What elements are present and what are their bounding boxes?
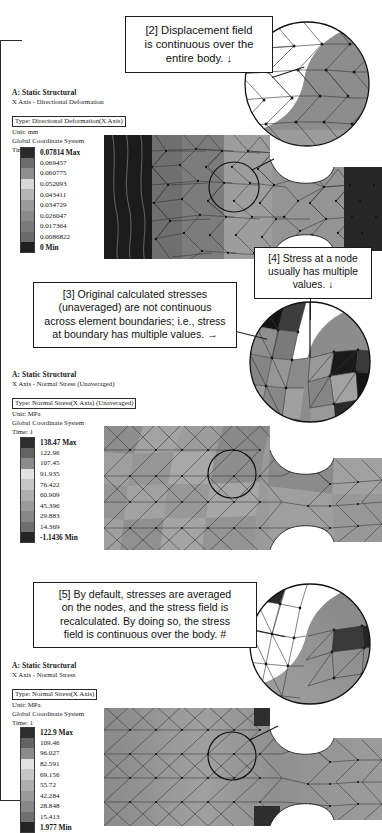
legend-value-label: 0.0086822 — [40, 233, 70, 241]
magnifier-source-stress-unaveraged — [206, 442, 276, 502]
result-coordinate-system: Global Coordinate System — [12, 419, 136, 428]
legend-row: 0.026047 — [20, 211, 80, 222]
legend-row: 60.909 — [20, 490, 78, 501]
legend-color-swatch — [20, 812, 35, 823]
legend-color-swatch — [20, 769, 35, 780]
callout-2-line-3: entire body. ↓ — [130, 51, 268, 65]
callout-4-line-3: values. ↓ — [259, 279, 367, 292]
legend-value-label: 15.413 — [40, 813, 60, 821]
legend-value-label: 122.96 — [40, 449, 60, 457]
legend-value-label: 29.883 — [40, 512, 60, 520]
callout-3-line-4: at boundary has multiple values. → — [38, 328, 232, 341]
magnifier-source-stress-averaged — [206, 724, 286, 784]
callout-5-line-1: [5] By default, stresses are averaged — [39, 588, 251, 601]
callout-3: [3] Original calculated stresses (unaver… — [33, 282, 237, 348]
contour-legend-stress-unaveraged: 138.47 Max122.96107.4591.93576.42260.909… — [20, 437, 78, 543]
legend-color-swatch — [20, 759, 35, 770]
legend-value-label: 76.422 — [40, 481, 60, 489]
legend-value-label: 0.017364 — [40, 222, 67, 230]
legend-color-swatch — [20, 522, 35, 533]
legend-color-swatch — [20, 780, 35, 791]
legend-row: 42.284 — [20, 791, 73, 802]
legend-row: 96.027 — [20, 748, 73, 759]
legend-value-label: 96.027 — [40, 749, 60, 757]
legend-color-swatch — [20, 221, 35, 232]
result-subtitle: X Axis - Normal Stress — [12, 671, 97, 680]
result-header-stress-averaged: A: Static Structural X Axis - Normal Str… — [12, 661, 97, 728]
legend-value-label: 55.72 — [40, 781, 56, 789]
page-rule-top-tick — [0, 40, 22, 41]
legend-color-swatch — [20, 791, 35, 802]
result-header-displacement: A: Static Structural X Axis - Directiona… — [12, 88, 126, 155]
legend-color-swatch — [20, 437, 35, 449]
result-subtitle: X Axis - Directional Deformation — [12, 98, 126, 107]
legend-value-label: 28.848 — [40, 802, 60, 810]
legend-color-swatch — [20, 242, 35, 254]
legend-row: 0.017364 — [20, 221, 80, 232]
legend-value-label: 0.07814 Max — [40, 148, 80, 157]
contour-legend-stress-averaged: 122.9 Max109.4696.02782.59169.15655.7242… — [20, 727, 73, 833]
legend-color-swatch — [20, 501, 35, 512]
result-header-stress-unaveraged: A: Static Structural X Axis - Normal Str… — [12, 370, 136, 437]
callout-4: [4] Stress at a node usually has multipl… — [254, 247, 372, 299]
legend-value-label: 1.977 Min — [40, 823, 72, 832]
legend-value-label: 138.47 Max — [40, 438, 77, 447]
legend-color-swatch — [20, 232, 35, 243]
legend-row: 0.0086822 — [20, 232, 80, 243]
legend-value-label: 107.45 — [40, 459, 60, 467]
legend-value-label: 109.46 — [40, 739, 60, 747]
result-unit: Unit: mm — [12, 128, 126, 137]
callout-4-leader — [310, 298, 311, 320]
legend-row: 0 Min — [20, 242, 80, 253]
result-time: Time: 1 — [12, 428, 136, 437]
legend-value-label: 45.396 — [40, 502, 60, 510]
legend-row: 76.422 — [20, 479, 78, 490]
legend-row: 91.935 — [20, 469, 78, 480]
legend-row: 55.72 — [20, 780, 73, 791]
page-rule-bottom-tick — [0, 800, 22, 801]
legend-row: 0.052093 — [20, 179, 80, 190]
legend-color-swatch — [20, 469, 35, 480]
legend-row: 107.45 — [20, 458, 78, 469]
result-coordinate-system: Global Coordinate System — [12, 137, 126, 146]
legend-value-label: 0.069457 — [40, 159, 67, 167]
legend-color-swatch — [20, 511, 35, 522]
callout-2-line-1: [2] Displacement field — [130, 23, 268, 37]
legend-value-label: 0.052093 — [40, 180, 67, 188]
result-title: A: Static Structural — [12, 370, 136, 380]
legend-color-swatch — [20, 179, 35, 190]
legend-row: 0.060775 — [20, 168, 80, 179]
result-title: A: Static Structural — [12, 661, 97, 671]
legend-color-swatch — [20, 168, 35, 179]
callout-5: [5] By default, stresses are averaged on… — [33, 582, 257, 648]
legend-row: 122.9 Max — [20, 727, 73, 738]
legend-row: 0.043411 — [20, 189, 80, 200]
callout-3-line-1: [3] Original calculated stresses — [38, 288, 232, 301]
legend-row: 0.034729 — [20, 200, 80, 211]
legend-row: 0.069457 — [20, 158, 80, 169]
legend-color-swatch — [20, 211, 35, 222]
result-unit: Unit: MPa — [12, 410, 136, 419]
legend-color-swatch — [20, 822, 35, 833]
result-type-boxed: Type: Normal Stress(X Axis) (Unaveraged) — [12, 398, 136, 409]
page-rule-vertical — [0, 40, 1, 800]
legend-row: -1.1436 Min — [20, 532, 78, 543]
legend-value-label: 82.591 — [40, 760, 60, 768]
legend-color-swatch — [20, 490, 35, 501]
result-title: A: Static Structural — [12, 88, 126, 98]
callout-4-line-1: [4] Stress at a node — [259, 253, 367, 266]
legend-value-label: 14.369 — [40, 523, 60, 531]
legend-color-swatch — [20, 200, 35, 211]
result-unit: Unit: MPa — [12, 701, 97, 710]
legend-value-label: 0.026047 — [40, 212, 67, 220]
legend-value-label: 0.034729 — [40, 201, 67, 209]
callout-3-line-2: (unaveraged) are not continuous — [38, 301, 232, 314]
legend-color-swatch — [20, 801, 35, 812]
result-type-boxed: Type: Directional Deformation(X Axis) — [12, 116, 126, 127]
legend-row: 122.96 — [20, 448, 78, 459]
callout-2: [2] Displacement field is continuous ove… — [125, 16, 273, 73]
legend-color-swatch — [20, 479, 35, 490]
legend-value-label: 0.043411 — [40, 191, 66, 199]
legend-row: 14.369 — [20, 522, 78, 533]
